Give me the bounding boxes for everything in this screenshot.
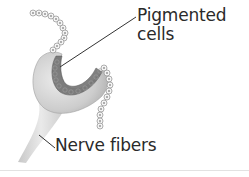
upper-cell-chain [30, 10, 68, 53]
divider [0, 170, 249, 171]
label-pigmented-cells: Pigmented cells [137, 6, 226, 44]
label-nerve-fibers: Nerve fibers [55, 136, 157, 155]
cup-body [33, 52, 108, 113]
leader-line-pigmented-cells [60, 17, 136, 67]
